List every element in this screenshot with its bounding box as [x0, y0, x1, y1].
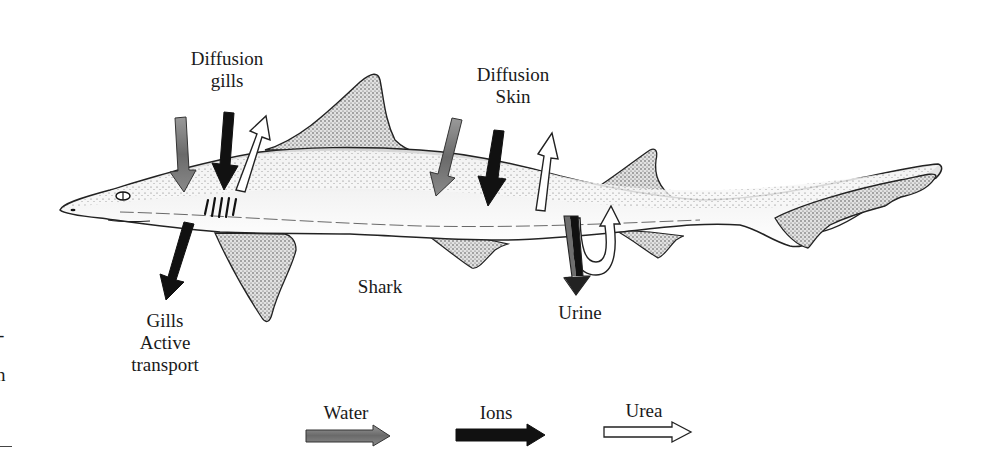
label-line: Active — [110, 332, 220, 354]
label-gills-active-transport: Gills Active transport — [110, 310, 220, 376]
anal-fin — [615, 230, 684, 258]
label-line: Skin — [458, 86, 568, 108]
legend-urea-label: Urea — [604, 400, 684, 422]
left-edge-fragment: n — [0, 364, 6, 386]
label-diffusion-skin: Diffusion Skin — [458, 64, 568, 108]
label-line: Diffusion — [458, 64, 568, 86]
left-edge-rule — [0, 446, 12, 447]
legend-water-label: Water — [306, 402, 386, 424]
pelvic-fin — [430, 237, 508, 268]
label-shark: Shark — [340, 276, 420, 298]
label-urine: Urine — [545, 302, 615, 324]
pectoral-fin — [215, 233, 296, 321]
legend-water-arrow — [306, 425, 390, 446]
legend-ions-arrow — [456, 424, 545, 446]
legend-urea-arrow — [604, 422, 691, 442]
label-line: Gills — [110, 310, 220, 332]
label-line: gills — [172, 70, 282, 92]
first-dorsal-fin — [265, 74, 418, 153]
legend-ions-label: Ions — [456, 402, 536, 424]
shark-osmoregulation-diagram: Diffusion gills Diffusion Skin Gills Act… — [0, 0, 994, 459]
label-line: Diffusion — [172, 48, 282, 70]
label-diffusion-gills: Diffusion gills — [172, 48, 282, 92]
gill-active-transport-arrow — [160, 222, 194, 300]
left-edge-fragment: - — [0, 324, 4, 346]
label-line: transport — [110, 354, 220, 376]
nostril — [71, 209, 76, 212]
